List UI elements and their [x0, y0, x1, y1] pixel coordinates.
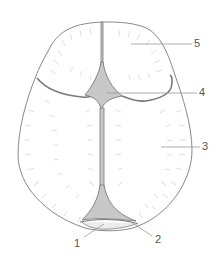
label-4: 4 [199, 87, 205, 98]
label-1: 1 [74, 238, 80, 249]
label-3: 3 [202, 141, 208, 152]
label-2: 2 [155, 234, 161, 245]
label-5: 5 [194, 38, 200, 49]
skull-diagram [0, 0, 222, 266]
sagittal-suture [100, 108, 104, 190]
